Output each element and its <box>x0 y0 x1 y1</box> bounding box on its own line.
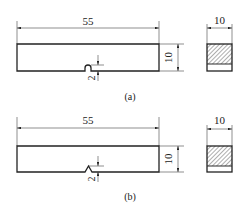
figure-b: 55 2 10 10 (b) <box>17 114 232 203</box>
length-dimension-label: 55 <box>83 15 95 27</box>
length-dimension-label: 55 <box>83 114 95 126</box>
specimen-bar <box>17 146 159 172</box>
figure-a-label: (a) <box>124 91 135 103</box>
section-width-label: 10 <box>214 14 226 26</box>
specimen-bar <box>17 44 159 71</box>
section-hatch <box>207 44 232 64</box>
charpy-specimen-diagram: 55 2 10 10 (a) 55 2 <box>0 0 244 214</box>
figure-b-label: (b) <box>124 191 136 203</box>
height-dimension-label: 10 <box>162 153 174 165</box>
height-dimension-label: 10 <box>162 52 174 64</box>
figure-a: 55 2 10 10 (a) <box>17 14 232 103</box>
section-hatch <box>207 146 232 166</box>
notch-depth-label: 2 <box>86 76 97 81</box>
section-width-label: 10 <box>214 114 226 126</box>
notch-depth-label: 2 <box>86 177 97 182</box>
